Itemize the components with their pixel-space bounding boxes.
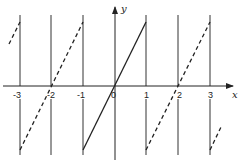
tick-label-2: 2 — [177, 90, 182, 100]
tick-label-neg3: -3 — [13, 90, 21, 100]
tick-label-3: 3 — [208, 90, 213, 100]
sawtooth-diagram: y x 0 -3 -2 -1 1 2 3 — [0, 0, 241, 167]
y-axis-label: y — [120, 3, 127, 14]
origin-label: 0 — [111, 90, 116, 100]
tick-label-1: 1 — [144, 90, 149, 100]
x-axis-label: x — [232, 89, 238, 100]
tick-label-neg2: -2 — [47, 90, 55, 100]
tick-label-neg1: -1 — [77, 90, 85, 100]
